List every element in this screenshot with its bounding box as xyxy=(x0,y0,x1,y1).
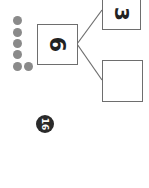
part-one-value: 3 xyxy=(109,7,133,21)
part-one-box: 3 xyxy=(102,0,141,30)
whole-box: 6 xyxy=(37,24,78,65)
problem-number: 16 xyxy=(40,118,50,131)
whole-value: 6 xyxy=(45,37,70,52)
part-two-box[interactable] xyxy=(102,60,143,102)
problem-number-badge: 16 xyxy=(36,115,54,133)
